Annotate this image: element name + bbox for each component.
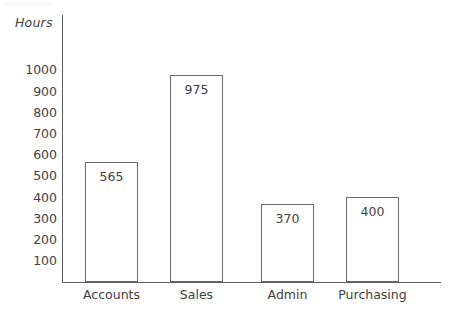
y-axis-tick-labels: 1000900800700600500400300200100: [0, 0, 57, 321]
y-tick-label: 900: [1, 85, 57, 98]
y-tick-label: 100: [1, 254, 57, 267]
y-tick-label: 1000: [1, 63, 57, 76]
y-tick-label: 700: [1, 127, 57, 140]
y-tick-label: 300: [1, 212, 57, 225]
bar-value-label: 565: [86, 170, 137, 184]
y-tick-label: 400: [1, 191, 57, 204]
x-category-label: Purchasing: [323, 288, 423, 302]
bar-value-label: 975: [171, 83, 222, 97]
x-category-label: Sales: [147, 288, 247, 302]
x-axis-line: [62, 282, 441, 283]
bar-value-label: 400: [347, 205, 398, 219]
y-tick-label: 200: [1, 233, 57, 246]
y-tick-label: 800: [1, 106, 57, 119]
bar: 370: [261, 204, 314, 283]
bar-value-label: 370: [262, 212, 313, 226]
bar: 975: [170, 75, 223, 282]
bar: 400: [346, 197, 399, 282]
plot-area: 565975370400: [62, 15, 441, 282]
bar: 565: [85, 162, 138, 282]
y-tick-label: 500: [1, 169, 57, 182]
bar-chart: Hours 1000900800700600500400300200100 56…: [0, 0, 457, 321]
y-tick-label: 600: [1, 148, 57, 161]
